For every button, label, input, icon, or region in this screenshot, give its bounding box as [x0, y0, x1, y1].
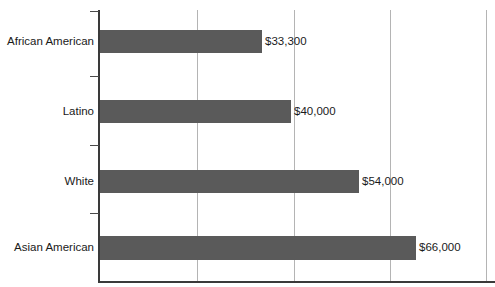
category-label-african-american: African American: [0, 36, 94, 48]
value-label-white: $54,000: [362, 176, 404, 188]
bar-latino[interactable]: [100, 100, 291, 123]
y-axis-tick: [90, 76, 99, 77]
category-label-asian-american: Asian American: [0, 242, 94, 254]
y-axis-tick: [90, 213, 99, 214]
y-axis-tick: [90, 11, 99, 12]
category-label-latino: Latino: [0, 106, 94, 118]
value-label-african-american: $33,300: [265, 36, 307, 48]
x-axis-line: [98, 281, 495, 283]
bar-chart: African American Latino White Asian Amer…: [0, 0, 495, 287]
value-label-latino: $40,000: [294, 106, 336, 118]
gridline: [486, 10, 487, 281]
category-label-white: White: [0, 176, 94, 188]
bar-african-american[interactable]: [100, 30, 262, 53]
y-axis-tick: [90, 145, 99, 146]
bar-asian-american[interactable]: [100, 236, 416, 260]
bar-white[interactable]: [100, 170, 359, 193]
value-label-asian-american: $66,000: [419, 242, 461, 254]
y-axis-line: [98, 10, 100, 282]
